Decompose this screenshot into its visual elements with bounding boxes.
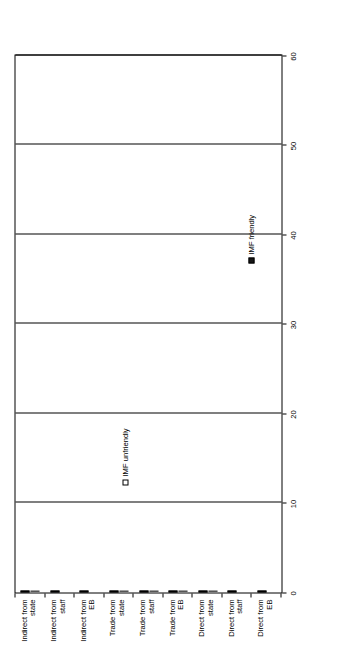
category-label-7: Direct from staff (227, 599, 244, 645)
value-label-30: 30 (288, 320, 297, 328)
legend-label: IMF friendly (246, 214, 255, 254)
value-tick-10 (282, 503, 286, 504)
category-axis-ticks (14, 592, 282, 593)
bar-imf-friendly-1 (50, 136, 59, 592)
bar-imf-unfriendly-6 (208, 556, 217, 592)
category-label-8: Direct from EB (256, 599, 273, 645)
value-tick-20 (282, 413, 286, 414)
chart-stage: Indirect from stateIndirect from staffIn… (0, 0, 342, 645)
bar-imf-friendly-7 (227, 198, 236, 592)
value-label-20: 20 (288, 410, 297, 418)
category-label-3: Trade from state (108, 599, 125, 645)
category-label-5: Trade from EB (168, 599, 185, 645)
legend-label: IMF unfriendly (120, 428, 129, 476)
bar-imf-unfriendly-0 (30, 579, 39, 592)
bar-imf-friendly-8 (257, 373, 266, 592)
value-label-0: 0 (288, 591, 297, 595)
category-label-1: Indirect from staff (49, 599, 66, 645)
bar-imf-friendly-3 (109, 292, 118, 592)
plot-area (14, 54, 282, 593)
value-label-10: 10 (288, 499, 297, 507)
category-label-6: Direct from state (197, 599, 214, 645)
bar-chart: Indirect from stateIndirect from staffIn… (0, 0, 342, 645)
bar-imf-friendly-0 (20, 136, 29, 592)
category-label-0: Indirect from state (20, 599, 37, 645)
value-axis-labels: 0102030405060 (288, 54, 302, 593)
value-tick-40 (282, 234, 286, 235)
bar-imf-unfriendly-4 (149, 503, 158, 593)
value-tick-50 (282, 145, 286, 146)
chart-rotation-wrapper: Indirect from stateIndirect from staffIn… (0, 0, 342, 645)
value-label-50: 50 (288, 141, 297, 149)
value-tick-60 (282, 55, 286, 56)
category-label-2: Indirect from EB (79, 599, 96, 645)
legend-item-imf-friendly: IMF friendly (246, 214, 255, 263)
legend-item-imf-unfriendly: IMF unfriendly (120, 428, 129, 485)
category-axis-labels: Indirect from stateIndirect from staffIn… (14, 595, 282, 645)
bar-imf-friendly-2 (79, 431, 88, 592)
category-label-4: Trade from staff (138, 599, 155, 645)
bar-imf-unfriendly-5 (178, 538, 187, 592)
bar-imf-friendly-5 (168, 426, 177, 592)
filled-square-icon (248, 257, 254, 263)
value-label-60: 60 (288, 52, 297, 60)
bar-imf-friendly-4 (139, 234, 148, 592)
value-tick-30 (282, 324, 286, 325)
bar-imf-friendly-6 (198, 162, 207, 592)
gridline-60 (15, 54, 281, 55)
empty-square-icon (122, 479, 128, 485)
value-tick-0 (282, 592, 286, 593)
value-label-40: 40 (288, 231, 297, 239)
